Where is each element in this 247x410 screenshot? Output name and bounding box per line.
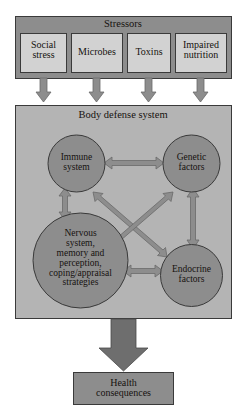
arrow-down-microbes — [89, 78, 104, 102]
arrow-down-impaired-nutrition — [193, 78, 208, 102]
arrow-down-social-stress — [36, 78, 51, 102]
arrow-down-to-health-consequences — [99, 319, 148, 371]
node-endocrine-factors[interactable] — [161, 245, 223, 307]
stressor-box-social-stress[interactable] — [21, 34, 67, 73]
stress-health-diagram: Stressors Social stress Microbes Toxins … — [0, 0, 247, 410]
node-genetic-factors[interactable] — [163, 135, 220, 192]
arrow-down-toxins — [141, 78, 156, 102]
stressor-box-impaired-nutrition[interactable] — [176, 34, 227, 73]
node-immune-system[interactable] — [48, 135, 105, 192]
stressor-box-microbes[interactable] — [72, 34, 123, 73]
health-consequences-box[interactable] — [74, 373, 174, 405]
stressor-box-toxins[interactable] — [128, 34, 171, 73]
diagram-canvas — [0, 0, 247, 410]
node-nervous-system[interactable] — [33, 213, 128, 308]
stressor-down-arrows — [36, 78, 208, 102]
